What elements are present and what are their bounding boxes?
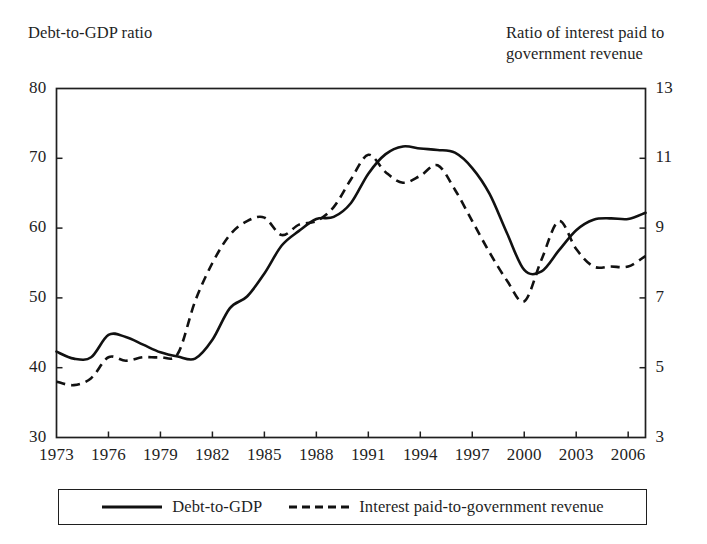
y-tick-label: 40 bbox=[13, 357, 47, 377]
x-tick-label: 1979 bbox=[133, 445, 187, 465]
x-tick-label: 1994 bbox=[393, 445, 447, 465]
legend-dashed-line-icon bbox=[288, 501, 350, 513]
y2-tick-label: 11 bbox=[656, 147, 690, 167]
y-tick-label: 70 bbox=[13, 147, 47, 167]
plot-frame bbox=[57, 89, 646, 438]
x-tick-label: 1997 bbox=[445, 445, 499, 465]
y-tick-label: 80 bbox=[13, 78, 47, 98]
x-tick-label: 2000 bbox=[497, 445, 551, 465]
legend-entries: Debt-to-GDPInterest paid-to-government r… bbox=[59, 490, 646, 524]
chart-figure: Debt-to-GDP ratio Ratio of interest paid… bbox=[0, 0, 707, 544]
legend-label: Interest paid-to-government revenue bbox=[359, 497, 603, 517]
plot-frame-rect bbox=[57, 89, 646, 438]
y2-tick-label: 7 bbox=[656, 287, 690, 307]
x-tick-label: 1991 bbox=[341, 445, 395, 465]
x-tick-label: 1988 bbox=[289, 445, 343, 465]
x-tick-label: 1976 bbox=[81, 445, 135, 465]
data-series bbox=[57, 146, 646, 385]
y2-tick-label: 13 bbox=[656, 78, 690, 98]
legend-solid-line-icon bbox=[101, 501, 163, 513]
legend-label: Debt-to-GDP bbox=[172, 497, 262, 517]
y2-tick-label: 9 bbox=[656, 217, 690, 237]
series-line-2 bbox=[57, 155, 646, 385]
x-tick-label: 1982 bbox=[185, 445, 239, 465]
legend-item-1: Debt-to-GDP bbox=[101, 497, 262, 517]
legend-item-2: Interest paid-to-government revenue bbox=[288, 497, 603, 517]
x-tick-label: 1973 bbox=[30, 445, 84, 465]
x-tick-label: 2006 bbox=[601, 445, 655, 465]
axis-ticks bbox=[57, 158, 646, 437]
x-tick-label: 1985 bbox=[237, 445, 291, 465]
y2-tick-label: 3 bbox=[656, 427, 690, 447]
y-tick-label: 60 bbox=[13, 217, 47, 237]
y-tick-label: 30 bbox=[13, 427, 47, 447]
legend: Debt-to-GDPInterest paid-to-government r… bbox=[58, 489, 647, 525]
x-tick-label: 2003 bbox=[549, 445, 603, 465]
y2-tick-label: 5 bbox=[656, 357, 690, 377]
y-tick-label: 50 bbox=[13, 287, 47, 307]
